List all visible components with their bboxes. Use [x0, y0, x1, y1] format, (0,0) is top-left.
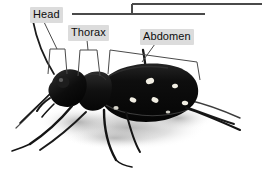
- figure-container: Head Thorax Abdomen: [0, 0, 262, 173]
- label-head: Head: [30, 7, 63, 23]
- label-thorax: Thorax: [68, 25, 109, 41]
- beetle-diagram: [0, 0, 262, 173]
- label-abdomen: Abdomen: [140, 29, 194, 45]
